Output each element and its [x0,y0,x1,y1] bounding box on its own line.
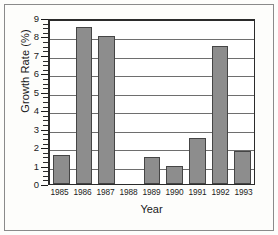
y-axis-tick-label: 2 [25,143,39,153]
bar-1989 [144,157,161,184]
y-axis-major-tick [41,167,48,168]
y-axis-tick-label: 9 [25,14,39,24]
bar-1993 [234,151,251,184]
y-axis-tick-label: 5 [25,88,39,98]
bar-slot [163,21,186,184]
x-axis-tick-labels: 198519861987198819891990199119921993 [48,187,255,197]
y-axis-tick-marks [41,19,48,185]
y-axis-major-tick [41,56,48,57]
y-axis-major-tick [41,130,48,131]
bar-slot [50,21,73,184]
bar-1990 [166,166,183,184]
bar-slot [118,21,141,184]
bar-slot [95,21,118,184]
y-axis-major-tick [41,19,48,20]
y-axis-major-tick [41,111,48,112]
plot-area [48,19,255,185]
bar-series [50,21,254,184]
bar-1985 [53,155,70,185]
y-axis-major-tick [41,93,48,94]
x-axis-tick-label: 1993 [232,187,255,197]
bar-slot [209,21,232,184]
y-axis-tick-labels: 0123456789 [25,19,39,185]
bar-1987 [98,36,115,184]
bar-slot [73,21,96,184]
y-axis-major-tick [41,185,48,186]
chart-figure: Growth Rate (%) 0123456789 1985198619871… [0,0,278,235]
figure-border: Growth Rate (%) 0123456789 1985198619871… [4,4,274,231]
x-axis-tick-label: 1992 [209,187,232,197]
x-axis-tick-label: 1986 [71,187,94,197]
bar-slot [141,21,164,184]
bar-1986 [76,27,93,184]
x-axis-tick-label: 1987 [94,187,117,197]
y-axis-tick-label: 4 [25,106,39,116]
x-axis-tick-label: 1991 [186,187,209,197]
y-axis-tick-label: 8 [25,33,39,43]
x-axis-tick-label: 1989 [140,187,163,197]
bar-1991 [189,138,206,184]
y-axis-tick-label: 7 [25,51,39,61]
y-axis-major-tick [41,37,48,38]
x-axis-tick-label: 1990 [163,187,186,197]
x-axis-title: Year [48,203,255,215]
y-axis-tick-label: 6 [25,70,39,80]
bar-slot [186,21,209,184]
bar-1992 [212,46,229,184]
x-axis-tick-label: 1985 [48,187,71,197]
bar-slot [231,21,254,184]
y-axis-tick-label: 0 [25,180,39,190]
y-axis-tick-label: 1 [25,162,39,172]
y-axis-tick-label: 3 [25,125,39,135]
y-axis-major-tick [41,74,48,75]
x-axis-tick-label: 1988 [117,187,140,197]
y-axis-major-tick [41,148,48,149]
